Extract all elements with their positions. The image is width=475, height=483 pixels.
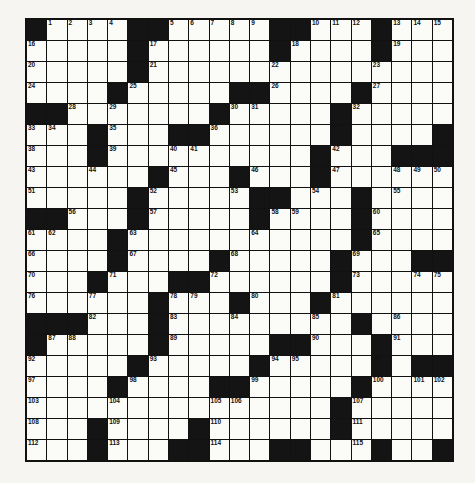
grid-cell[interactable] — [250, 41, 269, 61]
grid-cell[interactable] — [270, 419, 289, 439]
grid-cell[interactable]: 48 — [392, 167, 411, 187]
grid-cell[interactable] — [311, 356, 330, 376]
grid-cell[interactable]: 24 — [27, 83, 46, 103]
grid-cell[interactable] — [128, 125, 147, 145]
grid-cell[interactable] — [331, 230, 350, 250]
grid-cell[interactable] — [311, 125, 330, 145]
grid-cell[interactable] — [311, 377, 330, 397]
grid-cell[interactable] — [392, 356, 411, 376]
grid-cell[interactable]: 46 — [250, 167, 269, 187]
grid-cell[interactable] — [68, 188, 87, 208]
grid-cell[interactable] — [88, 377, 107, 397]
grid-cell[interactable]: 112 — [27, 440, 46, 460]
grid-cell[interactable]: 19 — [392, 41, 411, 61]
grid-cell[interactable] — [47, 83, 66, 103]
grid-cell[interactable]: 57 — [149, 209, 168, 229]
grid-cell[interactable] — [149, 272, 168, 292]
grid-cell[interactable] — [149, 440, 168, 460]
grid-cell[interactable]: 95 — [291, 356, 310, 376]
grid-cell[interactable]: 50 — [433, 167, 452, 187]
grid-cell[interactable]: 17 — [149, 41, 168, 61]
grid-cell[interactable] — [331, 356, 350, 376]
grid-cell[interactable] — [372, 314, 391, 334]
grid-cell[interactable] — [149, 104, 168, 124]
grid-cell[interactable] — [88, 335, 107, 355]
grid-cell[interactable] — [88, 83, 107, 103]
grid-cell[interactable]: 102 — [433, 377, 452, 397]
grid-cell[interactable] — [230, 209, 249, 229]
grid-cell[interactable] — [311, 251, 330, 271]
grid-cell[interactable]: 9 — [250, 20, 269, 40]
grid-cell[interactable] — [189, 230, 208, 250]
grid-cell[interactable] — [270, 314, 289, 334]
grid-cell[interactable] — [68, 272, 87, 292]
grid-cell[interactable] — [412, 188, 431, 208]
grid-cell[interactable] — [88, 41, 107, 61]
grid-cell[interactable] — [88, 251, 107, 271]
grid-cell[interactable] — [331, 335, 350, 355]
grid-cell[interactable] — [270, 293, 289, 313]
grid-cell[interactable]: 55 — [392, 188, 411, 208]
grid-cell[interactable]: 8 — [230, 20, 249, 40]
grid-cell[interactable]: 16 — [27, 41, 46, 61]
grid-cell[interactable]: 32 — [352, 104, 371, 124]
grid-cell[interactable]: 60 — [372, 209, 391, 229]
grid-cell[interactable] — [270, 167, 289, 187]
grid-cell[interactable] — [128, 314, 147, 334]
grid-cell[interactable] — [291, 398, 310, 418]
grid-cell[interactable] — [68, 377, 87, 397]
grid-cell[interactable] — [149, 251, 168, 271]
grid-cell[interactable] — [352, 167, 371, 187]
grid-cell[interactable] — [311, 440, 330, 460]
grid-cell[interactable]: 113 — [108, 440, 127, 460]
grid-cell[interactable] — [189, 356, 208, 376]
grid-cell[interactable] — [230, 230, 249, 250]
grid-cell[interactable]: 54 — [311, 188, 330, 208]
grid-cell[interactable] — [331, 440, 350, 460]
grid-cell[interactable]: 80 — [250, 293, 269, 313]
grid-cell[interactable] — [108, 335, 127, 355]
grid-cell[interactable] — [392, 104, 411, 124]
grid-cell[interactable] — [169, 398, 188, 418]
grid-cell[interactable] — [311, 83, 330, 103]
grid-cell[interactable] — [250, 146, 269, 166]
grid-cell[interactable] — [210, 209, 229, 229]
grid-cell[interactable] — [270, 125, 289, 145]
grid-cell[interactable] — [169, 209, 188, 229]
grid-cell[interactable]: 56 — [68, 209, 87, 229]
grid-cell[interactable] — [230, 125, 249, 145]
grid-cell[interactable] — [230, 62, 249, 82]
grid-cell[interactable] — [250, 440, 269, 460]
grid-cell[interactable]: 97 — [27, 377, 46, 397]
grid-cell[interactable]: 40 — [169, 146, 188, 166]
grid-cell[interactable]: 108 — [27, 419, 46, 439]
grid-cell[interactable]: 35 — [108, 125, 127, 145]
grid-cell[interactable]: 110 — [210, 419, 229, 439]
grid-cell[interactable] — [230, 419, 249, 439]
grid-cell[interactable]: 53 — [230, 188, 249, 208]
grid-cell[interactable]: 84 — [230, 314, 249, 334]
grid-cell[interactable] — [250, 398, 269, 418]
grid-cell[interactable] — [210, 293, 229, 313]
grid-cell[interactable]: 106 — [230, 398, 249, 418]
grid-cell[interactable] — [108, 356, 127, 376]
grid-cell[interactable]: 91 — [392, 335, 411, 355]
grid-cell[interactable]: 67 — [128, 251, 147, 271]
grid-cell[interactable] — [331, 377, 350, 397]
grid-cell[interactable]: 90 — [311, 335, 330, 355]
grid-cell[interactable] — [372, 293, 391, 313]
grid-cell[interactable]: 86 — [392, 314, 411, 334]
grid-cell[interactable]: 66 — [27, 251, 46, 271]
grid-cell[interactable] — [352, 335, 371, 355]
grid-cell[interactable]: 81 — [331, 293, 350, 313]
grid-cell[interactable]: 30 — [230, 104, 249, 124]
grid-cell[interactable] — [250, 62, 269, 82]
grid-cell[interactable] — [68, 419, 87, 439]
grid-cell[interactable] — [230, 41, 249, 61]
grid-cell[interactable] — [392, 230, 411, 250]
grid-cell[interactable] — [291, 251, 310, 271]
grid-cell[interactable]: 18 — [291, 41, 310, 61]
grid-cell[interactable]: 36 — [210, 125, 229, 145]
grid-cell[interactable] — [169, 419, 188, 439]
grid-cell[interactable] — [149, 83, 168, 103]
